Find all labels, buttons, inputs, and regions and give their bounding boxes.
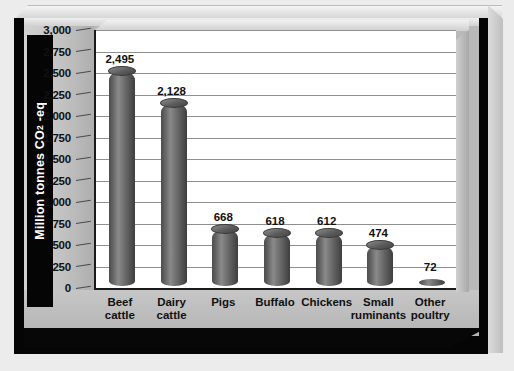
y-axis-tick-label: 1,750 — [43, 132, 71, 144]
x-axis-label-line: cattle — [132, 309, 212, 322]
y-axis-tick-label: 1,000 — [43, 196, 71, 208]
bar-top-cap — [263, 228, 291, 238]
bar-top-cap — [108, 66, 136, 76]
y-axis-tick-label: 2,750 — [43, 46, 71, 58]
gridline — [96, 116, 456, 117]
bar-value-label: 2,128 — [132, 85, 212, 97]
y-axis-tick-label: 1,250 — [43, 175, 71, 187]
bar-value-label: 72 — [390, 261, 470, 273]
gridline — [96, 52, 456, 53]
y-axis-tick-label: 500 — [52, 239, 71, 251]
y-axis-tick: 2,000 — [0, 109, 94, 123]
y-axis-tick-mark — [76, 27, 91, 30]
gridline — [96, 30, 456, 31]
y-axis-tick-label: 2,000 — [43, 110, 71, 122]
gridline — [96, 181, 456, 182]
bar — [419, 279, 445, 286]
x-axis-label-line: poultry — [390, 309, 470, 322]
y-axis-tick-label: 1,500 — [43, 153, 71, 165]
y-axis-tick-label: 2,250 — [43, 89, 71, 101]
y-axis-tick: 500 — [0, 238, 94, 252]
y-axis-tick-mark — [76, 178, 91, 181]
bar — [316, 233, 342, 286]
y-axis-tick-mark — [76, 199, 91, 202]
y-axis-tick: 2,500 — [0, 66, 94, 80]
bar-value-label: 612 — [287, 215, 367, 227]
x-axis-label-line: Other — [390, 296, 470, 309]
gridline — [96, 138, 456, 139]
gridline — [96, 73, 456, 74]
y-axis-tick: 0 — [0, 281, 94, 295]
y-axis-tick-label: 750 — [52, 218, 71, 230]
bar — [161, 103, 187, 286]
y-axis-tick-label: 3,000 — [43, 24, 71, 36]
plot-right-wall — [456, 30, 469, 292]
y-axis-tick-mark — [76, 70, 91, 73]
y-axis-tick-mark — [76, 92, 91, 95]
y-axis-tick: 250 — [0, 260, 94, 274]
y-axis-tick-mark — [76, 285, 91, 288]
y-axis-tick-mark — [76, 49, 91, 52]
y-axis-tick: 3,000 — [0, 23, 94, 37]
bar — [212, 229, 238, 286]
y-axis-tick-mark — [76, 156, 91, 159]
y-axis-tick: 2,250 — [0, 88, 94, 102]
y-axis-tick-mark — [76, 135, 91, 138]
y-axis-tick-mark — [76, 264, 91, 267]
y-axis-title-subscript: 2 — [35, 125, 45, 130]
y-axis-tick: 1,750 — [0, 131, 94, 145]
y-axis-tick-label: 250 — [52, 261, 71, 273]
frame-right-bevel — [488, 5, 503, 353]
bar-top-cap — [366, 240, 394, 250]
bar — [109, 71, 135, 286]
bar-top-cap — [160, 98, 188, 108]
y-axis-tick: 750 — [0, 217, 94, 231]
chart-floor-shadow — [24, 328, 486, 348]
y-axis-tick-mark — [76, 221, 91, 224]
y-axis-tick: 1,000 — [0, 195, 94, 209]
y-axis-tick: 1,250 — [0, 174, 94, 188]
x-axis-label: Otherpoultry — [390, 296, 470, 322]
y-axis-tick-mark — [76, 113, 91, 116]
bar — [264, 233, 290, 286]
bar-value-label: 474 — [338, 227, 418, 239]
plot-area — [94, 30, 456, 290]
gridline — [96, 159, 456, 160]
bar-value-label: 2,495 — [80, 53, 160, 65]
y-axis-tick-mark — [76, 242, 91, 245]
y-axis-tick-label: 0 — [65, 282, 71, 294]
chart-figure: Million tonnes CO2 -eq 3,0002,7502,5002,… — [0, 0, 514, 371]
y-axis-tick-label: 2,500 — [43, 67, 71, 79]
y-axis-tick: 1,500 — [0, 152, 94, 166]
gridline — [96, 202, 456, 203]
